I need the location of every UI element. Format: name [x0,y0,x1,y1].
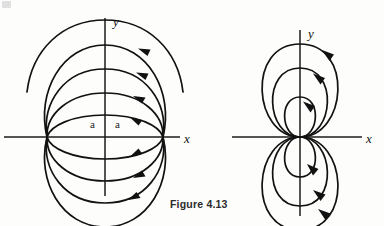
left-distance-label-a-left: a [90,118,95,130]
right-arrow-upper-large [322,50,334,61]
left-arrow-upper-4 [138,49,151,57]
left-x-axis-label: x [183,131,190,146]
right-x-axis-label: x [365,131,372,146]
figure-canvas: y x a a y [0,0,384,226]
figure-root: y x a a y [0,0,384,226]
right-arrow-upper-small [303,102,315,113]
left-plot-group: y x a a [4,14,190,226]
left-distance-label-a-right: a [115,118,120,130]
right-arrow-lower-large [318,209,331,220]
figure-caption: Figure 4.13 [170,198,228,210]
right-y-axis-label: y [306,26,314,41]
left-y-axis-label: y [111,14,119,29]
right-plot-group: y x [232,26,372,226]
